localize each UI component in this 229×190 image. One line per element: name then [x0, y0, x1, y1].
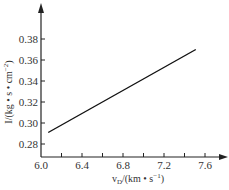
x-axis-arrow-icon [219, 154, 228, 160]
y-tick-label: 0.30 [19, 117, 39, 129]
y-axis-label: I/(kg • s • cm−2) [2, 60, 15, 123]
x-tick-label: 7.2 [157, 159, 171, 171]
y-tick-label: 0.38 [19, 33, 39, 45]
x-tick-label: 7.6 [198, 159, 212, 171]
x-tick-label: 6.0 [34, 159, 48, 171]
ticks: 6.06.46.87.27.60.280.300.320.340.360.38 [19, 33, 213, 171]
y-axis-arrow-icon [38, 3, 44, 13]
data-line [48, 50, 196, 133]
x-axis-label: vD/(km • s−1) [112, 172, 164, 186]
chart: 6.06.46.87.27.60.280.300.320.340.360.38 … [0, 0, 229, 190]
x-tick-label: 6.8 [116, 159, 130, 171]
y-tick-label: 0.28 [19, 138, 39, 150]
data-series [48, 50, 196, 133]
y-tick-label: 0.34 [19, 75, 39, 87]
y-tick-label: 0.36 [19, 54, 39, 66]
x-tick-label: 6.4 [75, 159, 89, 171]
axes [38, 3, 228, 160]
y-tick-label: 0.32 [19, 96, 38, 108]
